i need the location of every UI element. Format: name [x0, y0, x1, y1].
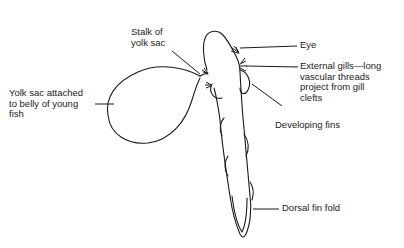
- label-external-gills: External gills—long vascular threads pro…: [300, 61, 381, 103]
- yolk-stalk: [200, 74, 208, 76]
- label-eye: Eye: [300, 40, 316, 51]
- yolk-sac-shape: [107, 67, 200, 143]
- label-developing-fins: Developing fins: [275, 120, 340, 131]
- gill-filaments: [240, 58, 247, 71]
- label-dorsal-fin-fold: Dorsal fin fold: [282, 203, 340, 214]
- label-stalk-of-yolk-sac: Stalk of yolk sac: [131, 27, 165, 48]
- fish-larva-diagram: [0, 0, 404, 248]
- label-yolk-sac: Yolk sac attached to belly of young fish: [9, 88, 83, 120]
- fin-fold-inner: [232, 196, 247, 232]
- eye-mark: [231, 46, 239, 54]
